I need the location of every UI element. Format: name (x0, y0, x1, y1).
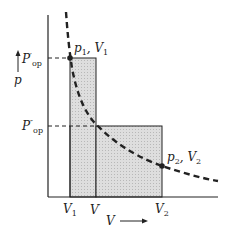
x-tick-v1: V1 (63, 203, 77, 218)
x-tick-v-prime: V′ (90, 203, 101, 216)
work-area-stage-1 (70, 58, 96, 197)
x-tick-v2: V2 (155, 203, 169, 218)
point-2-label: p2, V2 (167, 151, 201, 166)
x-axis-label: V (106, 215, 115, 227)
point-1-label: p1, V1 (74, 42, 108, 57)
point-2 (159, 163, 165, 169)
y-tick-p-op-prime: P′op (22, 52, 42, 68)
point-1 (67, 55, 73, 61)
y-tick-p-op-double-prime: P″op (22, 119, 43, 135)
y-axis-label: p (14, 74, 22, 86)
